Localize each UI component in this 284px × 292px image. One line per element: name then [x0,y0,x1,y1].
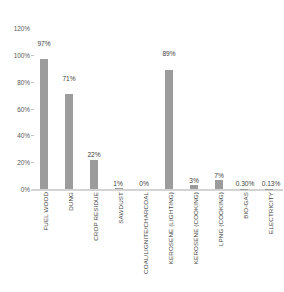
bar-lpng-cooking [215,180,223,189]
x-axis-line [31,189,283,191]
x-axis-label-coal-lignite-charcoal: COAL/LIGNITE/CHARCOAL [142,192,149,274]
value-label-coal-lignite-charcoal: 0% [139,180,149,187]
bar-crop-residue [90,160,98,190]
x-axis-label-kerosene-cooking: KEROSENE (COOKING) [192,192,199,264]
bar-dung [65,94,73,189]
y-axis-label-80: 80% [0,78,30,85]
value-label-dung: 71% [62,75,75,82]
bar-fuel-wood [40,59,48,189]
bar-sawdust [115,188,123,189]
y-axis-label-20: 20% [0,159,30,166]
value-label-kerosene-lighting: 89% [162,50,175,57]
y-axis-label-0: 0% [0,186,30,193]
bar-kerosene-lighting [165,70,173,190]
x-axis-label-sawdust: SAWDUST [117,192,124,224]
y-axis-label-60: 60% [0,105,30,112]
x-axis-label-crop-residue: CROP RESIDUE [92,192,99,241]
x-axis-label-fuel-wood: FUEL WOOD [42,192,49,231]
value-label-bio-gas: 0.30% [236,180,255,187]
value-label-sawdust: 1% [113,180,123,187]
bars-area [34,0,284,189]
x-axis-label-electricity: ELECTRICITY [267,192,274,234]
x-axis-label-dung: DUNG [67,192,74,211]
x-axis-label-lpng-cooking: LPNG (COOKING) [217,192,224,246]
bar-kerosene-cooking [190,185,198,189]
x-axis-label-bio-gas: BIO-GAS [242,192,249,219]
bar-chart: 120% 100% 80% 60% 40% 20% 0% 97% 71% 22%… [0,0,284,292]
y-axis-label-100: 100% [0,51,30,58]
x-axis-label-kerosene-lighting: KEROSENE (LIGHTING) [167,192,174,264]
value-label-lpng-cooking: 7% [214,172,224,179]
value-label-fuel-wood: 97% [37,40,50,47]
y-axis-label-120: 120% [0,25,30,32]
value-label-kerosene-cooking: 3% [189,177,199,184]
value-label-crop-residue: 22% [87,151,100,158]
value-label-electricity: 0.13% [262,180,281,187]
y-axis-label-40: 40% [0,132,30,139]
